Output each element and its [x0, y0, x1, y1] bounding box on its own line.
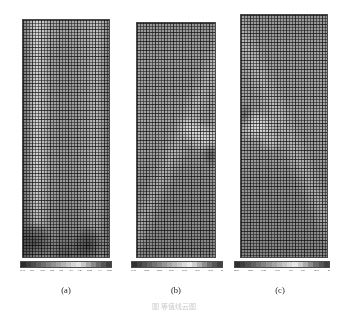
sublabel-b: (b) [146, 285, 206, 295]
colorbar-c-tick-label: 10.0 [289, 269, 293, 272]
colorbar-a [20, 261, 112, 268]
colorbar-c-tick-label: 62.97 [314, 269, 319, 272]
colorbar-a-tick-label: 3.01 [31, 269, 35, 272]
figure-root: 79.413.0148.018.630.6345.47.2920.8294.46… [0, 0, 348, 310]
colorbar-c-segment [324, 262, 329, 267]
colorbar-wrap-b: 74.4092.0358.0357.0054.0791.0491.0719 [131, 261, 223, 268]
colorbar-b-tick-label: 91.07 [208, 269, 213, 272]
colorbar-c-tick-label: 04.58 [262, 269, 267, 272]
contour-panel-c [240, 14, 328, 258]
colorbar-wrap-c: 22.5983.5604.5804.5910.01.5962.9787 [234, 261, 330, 268]
contour-panel-a [22, 19, 110, 258]
colorbar-a-tick-label: 79.41 [20, 269, 25, 272]
colorbar-a-tick-label: 0.63 [60, 269, 64, 272]
colorbar-c [234, 261, 330, 268]
colorbar-a-segment [106, 262, 111, 267]
colorbar-a-tick-label: 45.4 [69, 269, 73, 272]
colorbar-b-tick-label: 19 [221, 269, 223, 272]
sublabel-c: (c) [250, 285, 310, 295]
colorbar-wrap-a: 79.413.0148.018.630.6345.47.2920.8294.46… [20, 261, 112, 268]
colorbar-a-tick-label: 94.4 [98, 269, 102, 272]
colorbar-c-tick-label: 04.59 [275, 269, 280, 272]
colorbar-c-tick-label: 87 [328, 269, 330, 272]
colorbar-b-tick-label: 91.04 [195, 269, 200, 272]
colorbar-b-tick-label: 54.07 [182, 269, 187, 272]
colorbar-c-ticks: 22.5983.5604.5804.5910.01.5962.9787 [234, 269, 330, 272]
colorbar-a-tick-label: 62.86 [107, 269, 112, 272]
colorbar-b-segment [217, 262, 222, 267]
figure-caption-partial: 图 等值线云图 [0, 301, 348, 310]
colorbar-b [131, 261, 223, 268]
colorbar-b-tick-label: 58.03 [157, 269, 162, 272]
sublabel-a: (a) [36, 285, 96, 295]
colorbar-c-tick-label: 83.56 [248, 269, 253, 272]
colorbar-c-tick-label: 22.59 [234, 269, 239, 272]
colorbar-a-tick-label: 20.82 [87, 269, 92, 272]
colorbar-a-tick-label: 7.29 [78, 269, 82, 272]
colorbar-c-tick-label: 1.59 [302, 269, 306, 272]
colorbar-a-ticks: 79.413.0148.018.630.6345.47.2920.8294.46… [20, 269, 112, 272]
colorbar-a-tick-label: 48.01 [40, 269, 45, 272]
colorbar-b-tick-label: 57.00 [170, 269, 175, 272]
contour-field-c [241, 15, 327, 257]
colorbar-a-tick-label: 8.63 [50, 269, 54, 272]
colorbar-b-tick-label: 74.40 [131, 269, 136, 272]
colorbar-b-ticks: 74.4092.0358.0357.0054.0791.0491.0719 [131, 269, 223, 272]
colorbar-b-tick-label: 92.03 [144, 269, 149, 272]
contour-field-a [23, 20, 109, 257]
contour-panel-b [136, 22, 216, 258]
contour-field-b [137, 23, 215, 257]
